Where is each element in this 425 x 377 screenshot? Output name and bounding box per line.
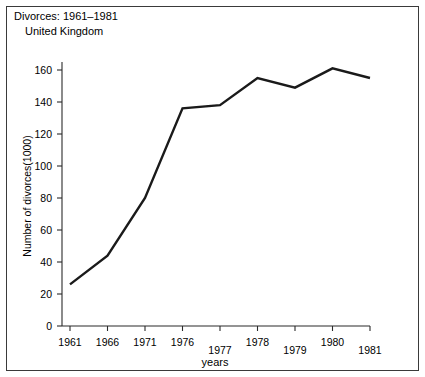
y-tick-label-0: 0 <box>16 320 52 332</box>
plot-area: 0 20 40 60 80 100 120 140 160 1961 1966 … <box>0 0 425 377</box>
y-tick-label-20: 20 <box>16 288 52 300</box>
x-tick-label-1981: 1981 <box>347 344 393 356</box>
y-tick-marks <box>57 70 62 326</box>
y-axis-title: Number of divorces(1000) <box>21 106 33 286</box>
x-axis-title: years <box>60 356 370 368</box>
figure-container: Divorces: 1961–1981 United Kingdom <box>0 0 425 377</box>
x-tick-marks <box>70 326 370 331</box>
data-series-line <box>70 68 370 284</box>
chart-svg <box>0 0 425 377</box>
y-tick-label-160: 160 <box>16 64 52 76</box>
